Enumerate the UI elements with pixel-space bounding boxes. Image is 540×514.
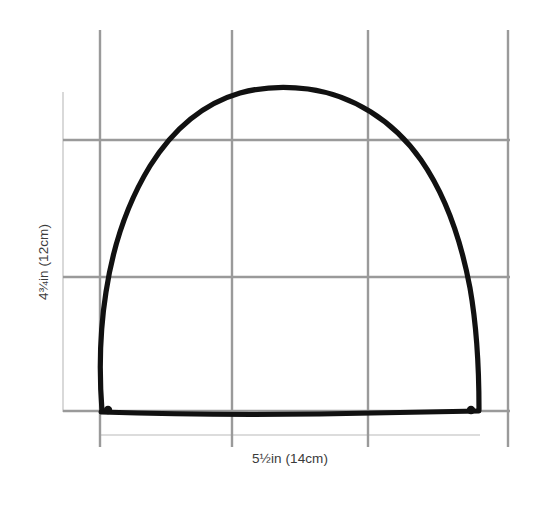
grid-horizontal-lines	[63, 140, 510, 411]
arch-outline	[100, 87, 479, 414]
arch-outline-path	[100, 87, 479, 411]
baseline-left-node	[104, 406, 112, 414]
width-dimension-label: 5½in (14cm)	[252, 452, 328, 466]
baseline-right-node	[467, 406, 475, 414]
guide-lines	[63, 92, 480, 435]
grid-vertical-lines	[100, 30, 508, 447]
height-dimension-label: 4¾in (12cm)	[37, 224, 51, 300]
arch-measurement-diagram	[0, 0, 540, 514]
drawing-canvas: 4¾in (12cm) 5½in (14cm)	[0, 0, 540, 514]
